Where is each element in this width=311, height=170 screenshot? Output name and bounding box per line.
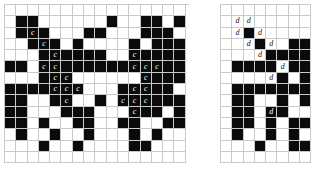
grid-cell-empty xyxy=(5,152,16,163)
grid-cell-filled xyxy=(300,61,311,72)
cell-label: c xyxy=(133,96,137,104)
grid-cell-filled xyxy=(141,141,152,152)
grid-cell-empty xyxy=(277,16,288,27)
grid-cell-empty xyxy=(163,5,174,16)
grid-cell-empty xyxy=(221,61,232,72)
right-grid: dddddddddddd xyxy=(220,4,311,163)
grid-cell-filled xyxy=(174,73,185,84)
grid-cell-empty xyxy=(84,16,95,27)
grid-cell-empty xyxy=(300,16,311,27)
grid-cell-empty xyxy=(39,107,50,118)
grid-cell-empty xyxy=(5,16,16,27)
grid-cell-empty xyxy=(221,16,232,27)
grid-cell-filled xyxy=(73,141,84,152)
grid-cell-filled xyxy=(244,84,255,95)
grid-cell-empty xyxy=(95,118,106,129)
cell-label: d xyxy=(269,73,273,81)
grid-cell-empty xyxy=(61,118,72,129)
grid-cell-filled: c xyxy=(129,107,140,118)
grid-cell-empty xyxy=(5,141,16,152)
grid-cell-filled xyxy=(232,107,243,118)
grid-cell-empty xyxy=(28,118,39,129)
grid-cell-empty xyxy=(277,129,288,140)
grid-cell-empty xyxy=(95,84,106,95)
grid-cell-filled xyxy=(152,16,163,27)
grid-cell-filled: c xyxy=(61,73,72,84)
grid-cell-empty xyxy=(107,129,118,140)
grid-cell-empty xyxy=(244,50,255,61)
grid-cell-empty xyxy=(84,84,95,95)
grid-cell-empty xyxy=(73,152,84,163)
cell-label: c xyxy=(65,85,69,93)
grid-cell-filled xyxy=(95,61,106,72)
grid-cell-filled xyxy=(39,84,50,95)
grid-cell-filled xyxy=(16,95,27,106)
cell-label: c xyxy=(54,85,58,93)
grid-cell-filled xyxy=(152,28,163,39)
grid-cell-empty xyxy=(28,5,39,16)
grid-cell-empty xyxy=(107,39,118,50)
grid-cell-filled xyxy=(16,84,27,95)
grid-cell-filled: c xyxy=(50,61,61,72)
grid-cell-filled xyxy=(118,61,129,72)
grid-cell-empty xyxy=(95,107,106,118)
grid-cell-empty xyxy=(95,129,106,140)
grid-cell-empty xyxy=(255,107,266,118)
grid-cell-empty xyxy=(289,107,300,118)
grid-cell-empty: d xyxy=(244,39,255,50)
grid-cell-empty xyxy=(163,16,174,27)
grid-cell-filled xyxy=(289,84,300,95)
grid-cell-empty: d xyxy=(255,28,266,39)
grid-cell-empty xyxy=(118,5,129,16)
grid-cell-empty xyxy=(28,50,39,61)
grid-cell-filled xyxy=(95,50,106,61)
grid-cell-filled xyxy=(300,73,311,84)
grid-cell-filled xyxy=(244,95,255,106)
grid-cell-filled: c xyxy=(141,61,152,72)
grid-cell-filled xyxy=(163,28,174,39)
grid-cell-filled xyxy=(84,61,95,72)
cell-label: c xyxy=(54,51,58,59)
grid-cell-empty xyxy=(277,39,288,50)
grid-cell-filled xyxy=(289,118,300,129)
grid-cell-empty xyxy=(107,28,118,39)
grid-cell-filled xyxy=(174,16,185,27)
grid-cell-empty xyxy=(129,73,140,84)
grid-cell-filled xyxy=(300,118,311,129)
cell-label: d xyxy=(269,40,273,48)
grid-cell-empty xyxy=(277,5,288,16)
grid-cell-empty xyxy=(73,95,84,106)
grid-cell-empty xyxy=(50,141,61,152)
grid-cell-filled: c xyxy=(129,50,140,61)
grid-cell-empty xyxy=(232,39,243,50)
grid-cell-empty xyxy=(289,73,300,84)
grid-cell-empty xyxy=(61,152,72,163)
cell-label: d xyxy=(247,40,251,48)
grid-cell-empty xyxy=(255,73,266,84)
grid-cell-filled xyxy=(84,118,95,129)
grid-cell-filled xyxy=(163,84,174,95)
grid-cell-empty xyxy=(118,141,129,152)
grid-cell-filled xyxy=(16,118,27,129)
grid-cell-filled xyxy=(163,73,174,84)
cell-label: d xyxy=(269,107,273,115)
grid-cell-empty xyxy=(95,141,106,152)
grid-cell-empty xyxy=(84,141,95,152)
grid-cell-empty xyxy=(61,28,72,39)
grid-cell-filled: c xyxy=(129,84,140,95)
grid-cell-empty xyxy=(5,129,16,140)
grid-cell-empty xyxy=(266,28,277,39)
grid-cell-filled xyxy=(118,84,129,95)
grid-cell-empty xyxy=(118,129,129,140)
grid-cell-empty xyxy=(28,107,39,118)
grid-cell-empty xyxy=(129,5,140,16)
grid-cell-empty xyxy=(129,16,140,27)
grid-cell-filled: c xyxy=(61,95,72,106)
grid-cell-empty xyxy=(28,152,39,163)
grid-cell-filled xyxy=(255,39,266,50)
grid-cell-filled xyxy=(266,50,277,61)
grid-cell-empty xyxy=(61,141,72,152)
grid-cell-filled xyxy=(163,61,174,72)
grid-cell-empty xyxy=(221,141,232,152)
grid-cell-empty xyxy=(107,50,118,61)
